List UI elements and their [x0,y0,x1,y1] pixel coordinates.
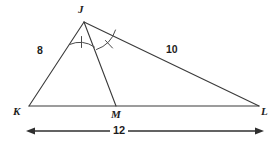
vertex-label-l: L [261,106,268,117]
figure-canvas [0,0,278,144]
geometry-figure: J K M L 8 10 12 [0,0,278,144]
segment-jl [84,22,259,106]
dimension-arrow-left [26,128,35,135]
side-length-jk: 8 [37,45,43,56]
vertex-label-m: M [111,109,121,120]
vertex-label-j: J [78,4,84,15]
vertex-label-k: K [13,106,20,117]
side-length-jl: 10 [166,44,178,55]
dimension-arrow-right [255,128,264,135]
dimension-label-kl: 12 [110,125,128,136]
segment-jk [29,22,84,106]
